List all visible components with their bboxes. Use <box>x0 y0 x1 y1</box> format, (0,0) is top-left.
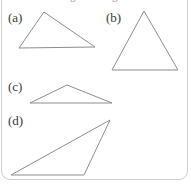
triangle-c <box>30 85 112 103</box>
figure-label-c: (c) <box>8 80 22 93</box>
triangle-b <box>112 11 178 70</box>
triangle-figures-canvas <box>0 0 191 189</box>
triangle-d <box>11 120 110 175</box>
figure-label-b: (b) <box>106 11 121 24</box>
figure-label-a: (a) <box>8 11 22 24</box>
figure-panel: congruent figures (a) (b) (c) (d) <box>0 0 191 189</box>
figure-label-d: (d) <box>8 114 23 127</box>
triangle-a <box>19 12 95 48</box>
